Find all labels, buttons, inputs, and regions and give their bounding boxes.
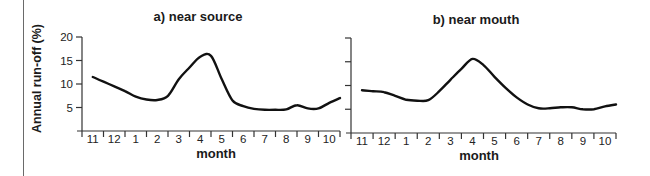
panel-b-title: b) near mouth bbox=[433, 12, 520, 27]
panel-a-x-tick-label: 4 bbox=[197, 133, 204, 145]
panel-b-x-tick-label: 6 bbox=[513, 135, 519, 147]
panel-b-x-axis-label: month bbox=[459, 148, 499, 163]
panel-b-x-tick-label: 8 bbox=[558, 135, 564, 147]
panel-a-y-tick-label: 10 bbox=[60, 78, 73, 90]
panel-b-x-tick-label: 7 bbox=[536, 135, 542, 147]
panel-a-series-line bbox=[93, 54, 340, 110]
panel-b-series-line bbox=[362, 59, 616, 110]
panel-a-x-tick-label: 5 bbox=[219, 133, 225, 145]
panel-a: 5101520111212345678910 bbox=[60, 31, 340, 145]
panel-b-x-tick-label: 12 bbox=[378, 135, 391, 147]
panel-a-x-tick-label: 10 bbox=[323, 133, 336, 145]
panel-a-x-tick-label: 2 bbox=[154, 133, 160, 145]
panel-a-y-tick-label: 5 bbox=[67, 102, 73, 114]
panel-b: 111212345678910 bbox=[345, 38, 616, 147]
panel-b-x-tick-label: 10 bbox=[599, 135, 612, 147]
panel-a-x-tick-label: 11 bbox=[87, 133, 99, 145]
panel-b-x-tick-label: 5 bbox=[491, 135, 497, 147]
panel-b-x-tick-label: 11 bbox=[356, 135, 368, 147]
y-axis-label: Annual run-off (%) bbox=[30, 24, 44, 133]
panel-a-x-tick-label: 6 bbox=[240, 133, 246, 145]
panel-b-x-tick-label: 9 bbox=[580, 135, 586, 147]
panel-a-x-tick-label: 12 bbox=[108, 133, 121, 145]
runoff-chart: Annual run-off (%) a) near source b) nea… bbox=[0, 0, 650, 176]
panel-b-x-tick-label: 3 bbox=[447, 135, 453, 147]
panel-a-x-tick-label: 8 bbox=[283, 133, 289, 145]
panel-b-x-tick-label: 1 bbox=[403, 135, 409, 147]
panel-b-x-tick-label: 4 bbox=[469, 135, 476, 147]
panel-a-x-tick-label: 1 bbox=[133, 133, 139, 145]
panel-a-y-tick-label: 20 bbox=[60, 31, 73, 43]
panel-b-x-tick-label: 2 bbox=[425, 135, 431, 147]
panel-a-x-axis-label: month bbox=[196, 146, 236, 161]
panel-a-title: a) near source bbox=[154, 9, 243, 24]
panel-a-x-tick-label: 9 bbox=[305, 133, 311, 145]
panel-a-x-tick-label: 7 bbox=[262, 133, 268, 145]
panel-a-y-tick-label: 15 bbox=[60, 55, 73, 67]
panel-a-x-tick-label: 3 bbox=[176, 133, 182, 145]
